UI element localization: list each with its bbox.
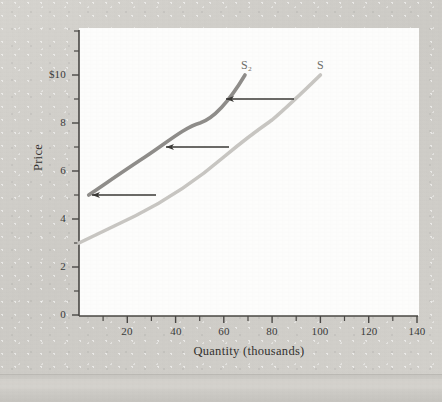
x-tick-label-20: 20 — [107, 325, 147, 337]
y-axis-title: Price — [31, 118, 46, 198]
curve-label-s2-text: S₂ — [241, 58, 252, 72]
x-tick-label-60: 60 — [204, 325, 244, 337]
supply-shift-chart: 0 2 4 6 8 $10 20 40 60 80 100 120 140 S₂… — [0, 0, 442, 374]
x-tick-label-80: 80 — [252, 325, 292, 337]
x-axis-title: Quantity (thousands) — [79, 344, 419, 359]
y-tick-label-4: 4 — [36, 212, 66, 224]
y-tick-label-10: $10 — [26, 68, 66, 80]
curve-s — [79, 75, 320, 243]
page-bottom-band-inner — [0, 379, 442, 389]
chart-canvas — [0, 0, 442, 374]
y-tick-label-2: 2 — [36, 260, 66, 272]
curve-label-s: S — [317, 58, 324, 73]
y-tick-label-0: 0 — [36, 308, 66, 320]
x-tick-label-40: 40 — [156, 325, 196, 337]
x-axis-major-ticks — [127, 316, 417, 323]
x-tick-label-100: 100 — [300, 325, 340, 337]
curve-label-s-text: S — [317, 58, 324, 72]
curve-label-s2: S₂ — [241, 58, 252, 73]
curve-s2 — [89, 75, 245, 195]
x-tick-label-120: 120 — [349, 325, 389, 337]
x-tick-label-140: 140 — [397, 325, 437, 337]
